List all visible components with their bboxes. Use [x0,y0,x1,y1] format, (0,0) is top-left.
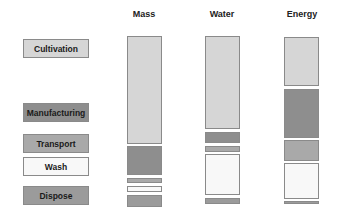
mass-segment-dispose [127,195,162,207]
water-segment-cultivation [205,36,240,129]
water-segment-manufacturing [205,132,240,143]
energy-segment-dispose [284,201,319,204]
mass-segment-cultivation [127,36,162,144]
water-segment-transport [205,146,240,152]
mass-segment-transport [127,178,162,183]
energy-segment-manufacturing [284,89,319,138]
water-segment-dispose [205,198,240,204]
column-header-mass: Mass [114,9,174,19]
legend-item-transport: Transport [23,134,89,153]
mass-segment-manufacturing [127,146,162,175]
column-header-energy: Energy [272,9,332,19]
energy-segment-cultivation [284,37,319,86]
legend-item-dispose: Dispose [23,186,89,205]
mass-segment-wash [127,186,162,192]
water-segment-wash [205,154,240,195]
legend-item-wash: Wash [23,157,89,176]
column-header-water: Water [192,9,252,19]
legend-item-cultivation: Cultivation [23,39,89,58]
energy-segment-transport [284,140,319,161]
energy-segment-wash [284,163,319,199]
legend-item-manufacturing: Manufacturing [23,103,89,122]
